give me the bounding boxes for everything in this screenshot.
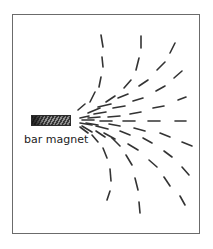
iron-filing-dash (182, 167, 189, 175)
iron-filing-dash (139, 202, 140, 213)
iron-filing-dash (92, 135, 98, 142)
iron-filing-dash (109, 124, 120, 126)
iron-filing-dash (113, 106, 125, 108)
iron-filing-dash (135, 178, 138, 190)
iron-filing-dash (118, 94, 128, 98)
iron-filing-dash (120, 131, 130, 135)
iron-filing-dash (139, 80, 148, 86)
iron-filing-dash (126, 155, 132, 165)
iron-filing-dash (149, 160, 157, 167)
iron-filing-dash (130, 112, 141, 114)
iron-filing-dash (180, 196, 185, 205)
iron-filing-dash (88, 117, 100, 118)
iron-filing-dash (102, 57, 103, 67)
iron-filing-dash (178, 97, 186, 100)
iron-filing-dash (88, 108, 100, 113)
iron-filing-dash (101, 35, 103, 47)
iron-filing-dash (78, 104, 85, 110)
iron-filing-dash (94, 112, 106, 114)
iron-filing-dash (98, 104, 111, 107)
iron-filing-dash (134, 128, 145, 131)
iron-filing-dash (174, 71, 182, 78)
iron-filing-dash (143, 138, 152, 143)
iron-filing-dash (164, 177, 170, 186)
iron-filing-dash (156, 86, 165, 91)
iron-filing-dash (164, 151, 172, 157)
iron-filing-dash (160, 133, 170, 137)
iron-filing-dash (136, 58, 139, 70)
iron-filing-dash (124, 80, 131, 88)
iron-filing-dash (99, 77, 101, 87)
iron-filing-dash (128, 144, 138, 150)
iron-filing-dash (104, 133, 115, 139)
iron-filing-dash (110, 169, 111, 181)
iron-filing-dash (96, 131, 105, 137)
iron-filing-dash (108, 116, 120, 117)
iron-filing-dash (106, 96, 115, 102)
iron-filing-dash (157, 62, 165, 70)
iron-filing-dash (107, 191, 110, 200)
iron-filings-field (0, 0, 213, 249)
iron-filing-dash (133, 98, 143, 101)
iron-filing-dash (182, 142, 192, 146)
iron-filing-dash (153, 106, 164, 108)
iron-filing-dash (170, 43, 175, 53)
iron-filing-dash (112, 138, 120, 146)
iron-filing-dash (103, 148, 107, 158)
iron-filing-dash (96, 126, 108, 129)
iron-filing-dash (90, 92, 95, 102)
